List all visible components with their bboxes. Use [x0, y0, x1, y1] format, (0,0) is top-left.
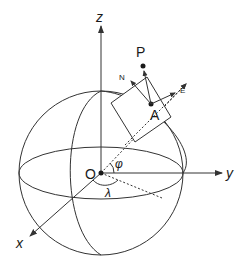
x-axis-label: x	[15, 235, 24, 251]
meridian-lower	[101, 173, 183, 255]
east-label: E	[180, 86, 185, 95]
tangent-plane	[111, 77, 171, 142]
longitude-arc	[93, 180, 118, 185]
latitude-arc	[110, 163, 114, 173]
point-A-label: A	[150, 107, 160, 123]
point-P-label: P	[136, 44, 145, 60]
geodetic-coordinate-diagram: z y x O P A N E φ λ	[0, 0, 247, 263]
z-axis-label: z	[95, 9, 103, 25]
origin-label: O	[85, 166, 96, 182]
x-axis	[30, 173, 101, 236]
north-label: N	[119, 73, 125, 82]
y-axis-label: y	[225, 165, 234, 181]
longitude-label: λ	[104, 186, 111, 200]
latitude-label: φ	[115, 157, 123, 171]
origin-point	[99, 171, 104, 176]
point-P	[141, 64, 146, 69]
